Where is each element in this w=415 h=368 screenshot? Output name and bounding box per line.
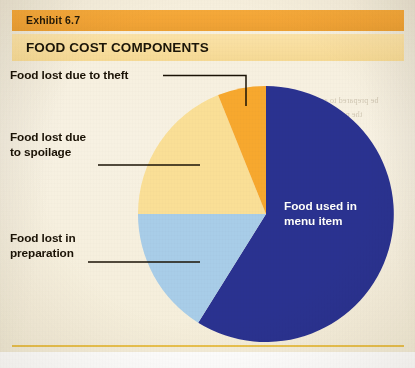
- exhibit-title-label: FOOD COST COMPONENTS: [26, 40, 209, 55]
- callout-food-lost-due-to-theft: Food lost due to theft: [10, 68, 128, 83]
- callout-preparation-line2: preparation: [10, 246, 76, 261]
- pie-center-label-line2: menu item: [284, 214, 357, 229]
- exhibit-number-label: Exhibit 6.7: [26, 14, 80, 26]
- exhibit-title-bar: FOOD COST COMPONENTS: [12, 34, 404, 61]
- callout-preparation-line1: Food lost in: [10, 231, 76, 246]
- callout-spoilage-line2: to spoilage: [10, 145, 86, 160]
- pie-label-food-used-in-menu-item: Food used in menu item: [284, 199, 357, 229]
- callout-spoilage-line1: Food lost due: [10, 130, 86, 145]
- callout-theft-line1: Food lost due to theft: [10, 68, 128, 83]
- scanned-page: be prepared to acceptthe portion cost of…: [0, 0, 415, 368]
- pie-center-label-line1: Food used in: [284, 199, 357, 214]
- callout-food-lost-due-to-spoilage: Food lost due to spoilage: [10, 130, 86, 159]
- exhibit-bottom-rule: [12, 345, 404, 347]
- callout-food-lost-in-preparation: Food lost in preparation: [10, 231, 76, 260]
- exhibit-number-bar: Exhibit 6.7: [12, 10, 404, 31]
